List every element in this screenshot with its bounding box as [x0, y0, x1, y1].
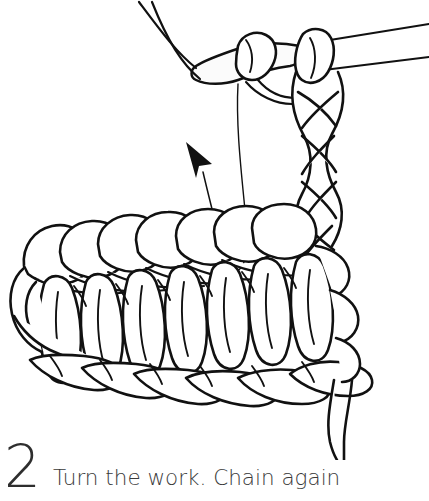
step-number: 2 — [4, 447, 41, 487]
top-loop-7 — [252, 204, 316, 259]
arrow-head — [186, 142, 212, 178]
chain-loop-top — [295, 29, 334, 83]
post-5 — [207, 262, 249, 369]
crochet-hook-group — [139, 2, 429, 84]
caption-row: 2 Turn the work. Chain again — [0, 455, 429, 501]
fabric-swatch-group — [11, 204, 373, 460]
hook-loop-front — [236, 33, 276, 80]
post-4 — [165, 266, 207, 373]
post-3 — [123, 270, 165, 377]
crochet-illustration — [0, 0, 429, 460]
caption-text: Turn the work. Chain again — [53, 465, 340, 491]
loop-on-hook — [236, 33, 276, 80]
post-6 — [249, 258, 291, 365]
right-corner-2 — [330, 290, 358, 342]
chain-right-edge — [326, 72, 343, 246]
